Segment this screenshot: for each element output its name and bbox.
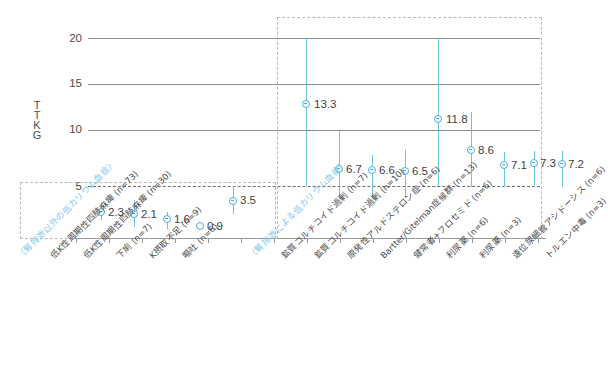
data-marker — [368, 166, 376, 174]
data-value-label: 3.5 — [240, 194, 256, 206]
group-box-renal — [277, 17, 542, 239]
data-marker — [434, 115, 442, 123]
y-axis-title-char-4: G — [26, 130, 48, 140]
data-value-label: 7.1 — [511, 159, 527, 171]
data-marker — [530, 159, 538, 167]
errorbar — [306, 38, 307, 186]
y-axis-title: T T K G — [26, 100, 48, 140]
data-value-label: 11.8 — [446, 113, 468, 125]
data-marker — [500, 161, 508, 169]
data-value-label: 2.1 — [141, 208, 157, 220]
data-marker — [229, 197, 237, 205]
data-value-label: 8.6 — [478, 144, 494, 156]
data-marker — [558, 160, 566, 168]
data-value-label: 7.3 — [540, 157, 556, 169]
x-tick — [241, 238, 242, 243]
errorbar — [534, 151, 535, 187]
data-marker — [467, 146, 475, 154]
data-value-label: 13.3 — [314, 98, 336, 110]
y-tick-label-20: 20 — [56, 32, 82, 44]
y-tick-label-10: 10 — [56, 123, 82, 135]
data-value-label: 7.2 — [568, 158, 584, 170]
data-marker — [163, 215, 171, 223]
x-axis-line — [76, 238, 546, 239]
category-label-14: トルエン中毒 (n=3) — [542, 194, 608, 260]
data-marker — [302, 100, 310, 108]
errorbar — [562, 151, 563, 187]
y-tick-label-15: 15 — [56, 77, 82, 89]
errorbar — [438, 38, 439, 186]
errorbar — [504, 152, 505, 187]
